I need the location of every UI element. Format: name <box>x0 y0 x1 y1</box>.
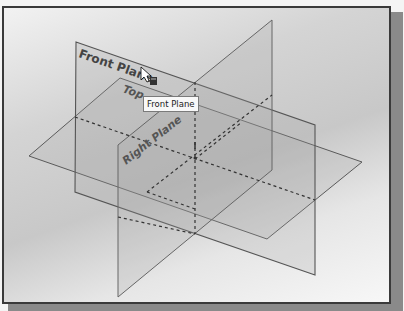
tooltip: Front Plane <box>143 96 199 112</box>
graphics-viewport[interactable]: Front Plane Top Right Plane Front Plane <box>2 6 391 304</box>
plane-scene: Front Plane Top Right Plane <box>4 8 391 304</box>
